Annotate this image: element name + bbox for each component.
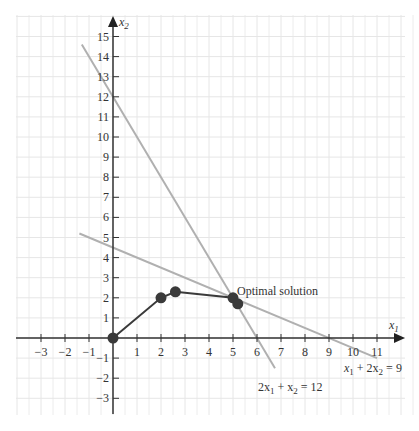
x-tick-label: 1	[134, 345, 140, 359]
x-tick-label: 7	[278, 345, 284, 359]
x-tick-label: 10	[347, 345, 359, 359]
y-tick-label: 14	[97, 50, 109, 64]
y-tick-label: 6	[103, 210, 109, 224]
y-tick-label: 15	[97, 30, 109, 44]
y-tick-label: 12	[97, 90, 109, 104]
constraint-line	[82, 45, 275, 369]
x-tick-label: 6	[254, 345, 260, 359]
y-tick-label: 11	[97, 110, 109, 124]
y-tick-label: 5	[103, 231, 109, 245]
x-tick-label: 2	[158, 345, 164, 359]
y-tick-label: 13	[97, 70, 109, 84]
x-tick-label: 11	[371, 345, 383, 359]
y-axis-label: x2	[118, 15, 129, 31]
lp-graph: −3−2−11234567891011−3−2−1123456789101112…	[0, 0, 419, 431]
x-tick-label: −1	[83, 345, 96, 359]
x-axis-label: x1	[388, 318, 399, 334]
y-tick-label: 7	[103, 190, 109, 204]
y-axis-arrow-icon	[108, 16, 118, 27]
optimal-solution-label: Optimal solution	[237, 284, 318, 298]
y-tick-label: 3	[103, 271, 109, 285]
x-tick-label: 5	[230, 345, 236, 359]
y-tick-label: −1	[96, 351, 109, 365]
constraint-label-x1-2x2-9: x1 + 2x2 = 9	[343, 361, 402, 377]
y-tick-label: −3	[96, 391, 109, 405]
constraint-label-2x1-x2-12: 2x1 + x2 = 12	[258, 380, 323, 396]
path-line	[113, 292, 238, 338]
y-tick-label: 10	[97, 130, 109, 144]
path-point	[170, 286, 181, 297]
y-tick-label: 1	[103, 311, 109, 325]
solution-path	[108, 286, 244, 343]
y-tick-label: 4	[103, 251, 109, 265]
y-tick-label: −2	[96, 371, 109, 385]
x-tick-label: 4	[206, 345, 212, 359]
path-point	[108, 333, 119, 344]
x-tick-label: 9	[326, 345, 332, 359]
y-tick-label: 9	[103, 150, 109, 164]
x-tick-label: −2	[59, 345, 72, 359]
y-tick-label: 2	[103, 291, 109, 305]
x-tick-label: 8	[302, 345, 308, 359]
y-tick-label: 8	[103, 170, 109, 184]
x-tick-label: 3	[182, 345, 188, 359]
x-axis-arrow-icon	[394, 333, 405, 343]
path-point	[232, 298, 243, 309]
path-point	[156, 292, 167, 303]
constraint-lines	[79, 45, 377, 369]
x-tick-label: −3	[35, 345, 48, 359]
